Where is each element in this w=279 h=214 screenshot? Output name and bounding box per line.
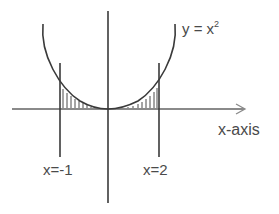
curve-label: y = x2 [182,21,219,36]
bound-label-left: x=-1 [43,162,73,177]
curve-label-base: y = x [182,20,214,37]
area-under-parabola-diagram [0,0,279,214]
x-axis-label: x-axis [218,122,260,138]
bound-label-right: x=2 [143,162,168,177]
curve-label-exponent: 2 [214,19,219,29]
